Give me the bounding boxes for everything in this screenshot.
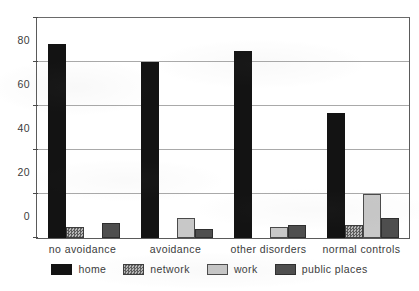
y-tick-mark	[33, 61, 38, 62]
legend-swatch-work	[207, 264, 228, 275]
bar-home-no-avoidance	[48, 44, 66, 238]
bar-home-normal-controls	[327, 113, 345, 238]
y-tick-label: 100	[0, 0, 30, 44]
bar-chart-figure: 020406080100 no avoidanceavoidanceother …	[0, 0, 419, 291]
chart-legend: homenetworkworkpublic places	[0, 263, 419, 275]
bar-public-places-no-avoidance	[102, 223, 120, 238]
gridline	[37, 105, 409, 106]
bar-work-avoidance	[177, 218, 195, 238]
legend-item-public-places: public places	[275, 263, 368, 275]
gridline	[37, 61, 409, 62]
legend-swatch-public-places	[275, 264, 296, 275]
bar-home-avoidance	[141, 62, 159, 238]
bar-work-other-disorders	[270, 227, 288, 238]
bar-work-normal-controls	[363, 194, 381, 238]
legend-item-network: network	[123, 263, 190, 275]
legend-swatch-home	[51, 264, 72, 275]
y-tick-mark	[33, 237, 38, 238]
bar-public-places-normal-controls	[381, 218, 399, 238]
legend-swatch-network	[123, 264, 144, 275]
y-tick-mark	[33, 17, 38, 18]
bar-public-places-avoidance	[195, 229, 213, 238]
bar-home-other-disorders	[234, 51, 252, 238]
x-tick-label: normal controls	[323, 243, 401, 255]
gridline	[37, 193, 409, 194]
bar-public-places-other-disorders	[288, 225, 306, 238]
y-tick-mark	[33, 105, 38, 106]
plot-area	[36, 17, 410, 239]
legend-item-home: home	[51, 263, 106, 275]
legend-item-work: work	[207, 263, 258, 275]
x-tick-label: no avoidance	[49, 243, 116, 255]
bar-network-no-avoidance	[66, 227, 84, 238]
x-tick-label: other disorders	[230, 243, 306, 255]
legend-label: home	[78, 263, 106, 275]
legend-label: network	[150, 263, 190, 275]
x-tick-label: avoidance	[150, 243, 201, 255]
y-tick-mark	[33, 193, 38, 194]
y-tick-mark	[33, 149, 38, 150]
legend-label: public places	[302, 263, 368, 275]
gridline	[37, 149, 409, 150]
bar-network-normal-controls	[345, 225, 363, 238]
legend-label: work	[234, 263, 258, 275]
